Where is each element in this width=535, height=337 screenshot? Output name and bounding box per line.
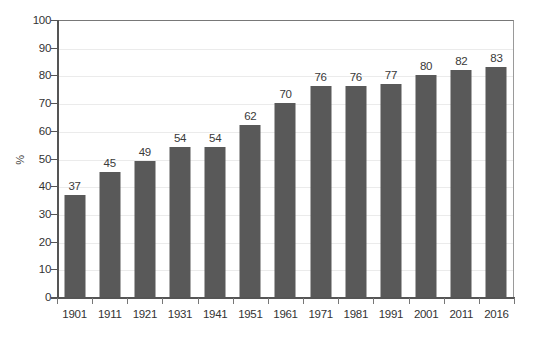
y-axis-tick-label: 60	[23, 125, 51, 137]
x-axis-tick-mark	[338, 298, 339, 304]
x-axis-tick-mark	[233, 298, 234, 304]
x-axis-tick-mark	[409, 298, 410, 304]
bar[interactable]	[486, 67, 507, 297]
y-axis-tick-label: 90	[23, 42, 51, 54]
x-axis-tick-label: 2001	[414, 308, 438, 320]
y-axis-tick-label: 70	[23, 97, 51, 109]
bar[interactable]	[240, 125, 261, 297]
x-axis-tick-mark	[127, 298, 128, 304]
bar-value-label: 54	[209, 132, 221, 144]
bar-value-label: 76	[350, 71, 362, 83]
bar[interactable]	[99, 172, 120, 297]
bar[interactable]	[64, 195, 85, 297]
bar-group[interactable]: 49	[127, 20, 162, 297]
bar-group[interactable]: 76	[303, 20, 338, 297]
y-axis-tick-label: 80	[23, 69, 51, 81]
bar[interactable]	[205, 147, 226, 297]
bar-group[interactable]: 77	[373, 20, 408, 297]
bar-group[interactable]: 54	[162, 20, 197, 297]
y-axis-tick-label: 30	[23, 208, 51, 220]
y-axis-tick-label: 40	[23, 180, 51, 192]
bar-value-label: 49	[139, 146, 151, 158]
x-axis-tick-mark	[268, 298, 269, 304]
y-axis-tick-labels: 0102030405060708090100	[20, 0, 51, 337]
bar[interactable]	[380, 84, 401, 297]
bar[interactable]	[310, 86, 331, 297]
x-axis-tick-label: 1921	[133, 308, 157, 320]
x-axis-tick-mark	[198, 298, 199, 304]
bar-value-label: 62	[244, 110, 256, 122]
x-axis-tick-mark	[92, 298, 93, 304]
x-axis-tick-label: 1961	[273, 308, 297, 320]
x-axis-tick-label: 2016	[484, 308, 508, 320]
bar-value-label: 37	[68, 180, 80, 192]
bar[interactable]	[134, 161, 155, 297]
bar-chart: % 0102030405060708090100 374549545462707…	[0, 0, 535, 337]
x-axis-tick-mark	[373, 298, 374, 304]
bar[interactable]	[416, 75, 437, 297]
bar[interactable]	[275, 103, 296, 297]
bar-group[interactable]: 62	[233, 20, 268, 297]
x-axis-tick-mark	[162, 298, 163, 304]
x-axis-tick-label: 1981	[344, 308, 368, 320]
bar-value-label: 82	[455, 55, 467, 67]
x-axis-tick-labels: 1901191119211931194119511961197119811991…	[57, 308, 514, 328]
bar-group[interactable]: 45	[92, 20, 127, 297]
x-axis-tick-label: 1901	[62, 308, 86, 320]
y-axis-tick-label: 100	[23, 14, 51, 26]
x-axis-tick-label: 1931	[168, 308, 192, 320]
bar-value-label: 70	[279, 88, 291, 100]
bar-group[interactable]: 83	[479, 20, 514, 297]
x-axis-tick-label: 1911	[98, 308, 122, 320]
x-axis-tick-mark	[514, 298, 515, 304]
bar-group[interactable]: 80	[409, 20, 444, 297]
bar-value-label: 77	[385, 69, 397, 81]
x-axis-tick-label: 1951	[238, 308, 262, 320]
x-axis-tick-label: 2011	[450, 308, 474, 320]
bar[interactable]	[345, 86, 366, 297]
y-axis-tick-label: 50	[23, 153, 51, 165]
x-axis-tick-label: 1971	[308, 308, 332, 320]
y-axis-tick-label: 20	[23, 236, 51, 248]
x-axis-tick-mark	[57, 298, 58, 304]
bar-group[interactable]: 82	[444, 20, 479, 297]
x-axis-tick-mark	[479, 298, 480, 304]
x-axis-line	[51, 297, 515, 299]
bar-value-label: 80	[420, 60, 432, 72]
x-axis-tick-mark	[444, 298, 445, 304]
bar[interactable]	[170, 147, 191, 297]
bar-group[interactable]: 54	[198, 20, 233, 297]
y-axis-tick-label: 10	[23, 263, 51, 275]
y-axis-tick-label: 0	[23, 291, 51, 303]
x-axis-tick-mark	[303, 298, 304, 304]
bar-group[interactable]: 37	[57, 20, 92, 297]
bar-value-label: 45	[104, 157, 116, 169]
bar[interactable]	[451, 70, 472, 297]
x-axis-tick-label: 1991	[379, 308, 403, 320]
x-axis-tick-label: 1941	[203, 308, 227, 320]
bar-group[interactable]: 76	[338, 20, 373, 297]
bar-group[interactable]: 70	[268, 20, 303, 297]
bar-value-label: 83	[490, 52, 502, 64]
bars-layer: 37454954546270767677808283	[57, 20, 514, 297]
bar-value-label: 54	[174, 132, 186, 144]
bar-value-label: 76	[315, 71, 327, 83]
